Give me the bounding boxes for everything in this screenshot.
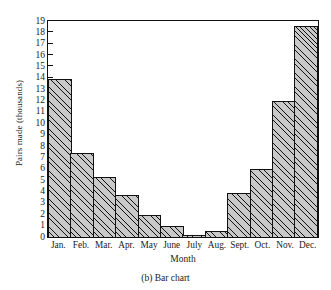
- bar: [294, 26, 318, 237]
- x-axis-tick-label: Jan.: [47, 240, 70, 250]
- bar: [160, 226, 184, 237]
- x-axis-tick-label: Mar.: [92, 240, 115, 250]
- y-axis-title: Pairs made (thousands): [14, 38, 24, 208]
- y-axis-tick-label: 5: [29, 174, 45, 186]
- y-axis-tick-label: 9: [29, 128, 45, 140]
- y-axis-tick-label: 18: [29, 26, 45, 38]
- bar: [93, 177, 117, 237]
- bar: [182, 235, 206, 237]
- figure-caption: (b) Bar chart: [0, 273, 331, 283]
- bar-series: [48, 21, 318, 237]
- x-axis-title: Month: [47, 254, 319, 264]
- x-axis-tick-label: May: [138, 240, 161, 250]
- x-axis-tick-label: Sept.: [228, 240, 251, 250]
- y-axis-tick-label: 16: [29, 49, 45, 61]
- bar: [115, 195, 139, 237]
- y-axis-tick-label: 19: [29, 15, 45, 27]
- y-axis-tick-label: 15: [29, 60, 45, 72]
- y-axis-tick-label: 13: [29, 83, 45, 95]
- y-axis-tick-label: 6: [29, 162, 45, 174]
- y-axis-tick-label: 17: [29, 37, 45, 49]
- y-axis-tick-label: 7: [29, 151, 45, 163]
- x-axis-tick-label: Oct.: [251, 240, 274, 250]
- y-axis-tick-label: 11: [29, 105, 45, 117]
- x-axis-tick-label: Aug.: [206, 240, 229, 250]
- x-axis-tick-label: Feb.: [70, 240, 93, 250]
- bar-chart-figure: Pairs made (thousands) 01234567891011121…: [0, 0, 331, 290]
- x-axis-tick-label: July: [183, 240, 206, 250]
- bar: [70, 153, 94, 237]
- bar: [205, 231, 229, 237]
- bar: [272, 101, 296, 237]
- y-axis-tick-label: 14: [29, 71, 45, 83]
- y-axis-tick-label: 2: [29, 208, 45, 220]
- x-axis-tick-label: Nov.: [274, 240, 297, 250]
- bar: [138, 215, 162, 237]
- x-axis-tick-labels: Jan.Feb.Mar.Apr.MayJuneJulyAug.Sept.Oct.…: [47, 240, 319, 250]
- x-axis-tick-label: Apr.: [115, 240, 138, 250]
- y-axis-tick-label: 4: [29, 185, 45, 197]
- bar: [48, 79, 72, 237]
- bar: [250, 169, 274, 237]
- x-axis-tick-label: June: [160, 240, 183, 250]
- y-axis-tick-label: 0: [29, 231, 45, 243]
- bar: [227, 193, 251, 237]
- y-axis-tick-label: 1: [29, 219, 45, 231]
- y-axis-tick-label: 8: [29, 140, 45, 152]
- y-axis-tick-label: 12: [29, 94, 45, 106]
- x-axis-tick-label: Dec.: [296, 240, 319, 250]
- y-axis-tick-label: 3: [29, 196, 45, 208]
- y-axis-tick-label: 10: [29, 117, 45, 129]
- plot-area: 012345678910111213141516171819: [47, 20, 319, 238]
